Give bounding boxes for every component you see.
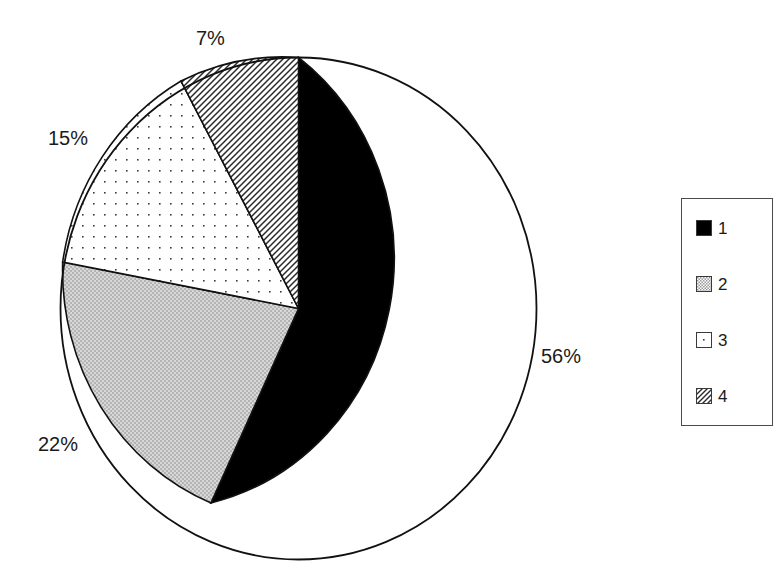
legend-item-4[interactable]: 4 — [696, 387, 727, 405]
legend-swatch-diagonal-hatch-icon — [696, 388, 712, 404]
legend-swatch-dotted-white-icon — [696, 332, 712, 348]
pie-label-slice-2: 22% — [38, 434, 78, 454]
pie-svg — [0, 0, 600, 588]
legend-label-4: 4 — [718, 388, 727, 405]
pie-label-slice-1: 56% — [541, 346, 581, 366]
legend-label-1: 1 — [718, 220, 727, 237]
legend: 1 2 3 4 — [681, 198, 773, 426]
legend-swatch-light-gray-icon — [696, 276, 712, 292]
legend-label-3: 3 — [718, 332, 727, 349]
pie-label-slice-4: 7% — [196, 28, 225, 48]
legend-item-3[interactable]: 3 — [696, 331, 727, 349]
pie-label-slice-3: 15% — [48, 128, 88, 148]
legend-item-1[interactable]: 1 — [696, 219, 727, 237]
pie-plot-area — [0, 0, 600, 588]
legend-swatch-solid-black-icon — [696, 220, 712, 236]
legend-item-2[interactable]: 2 — [696, 275, 727, 293]
legend-label-2: 2 — [718, 276, 727, 293]
pie-chart-figure: 7% 15% 22% 56% 1 2 3 4 — [0, 0, 782, 588]
